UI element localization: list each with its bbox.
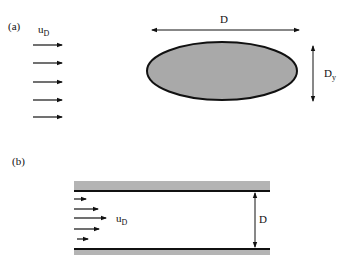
panel-b: (b) uD D	[12, 155, 270, 255]
panel-b-label: (b)	[12, 155, 25, 168]
poiseuille-flow-arrows	[74, 199, 106, 239]
panel-b-velocity-label: uD	[116, 212, 128, 227]
panel-a: (a) uD D Dy	[8, 13, 336, 117]
height-label: Dy	[324, 67, 336, 82]
bottom-wall	[74, 250, 270, 255]
panel-a-label: (a)	[8, 20, 21, 33]
uniform-flow-arrows	[33, 45, 62, 117]
diagram-canvas: (a) uD D Dy (b) uD D	[0, 0, 349, 255]
panel-a-velocity-label: uD	[38, 23, 50, 38]
gap-label: D	[259, 213, 267, 225]
top-wall	[74, 181, 270, 190]
width-label: D	[220, 13, 228, 25]
ellipse-body	[147, 42, 297, 100]
